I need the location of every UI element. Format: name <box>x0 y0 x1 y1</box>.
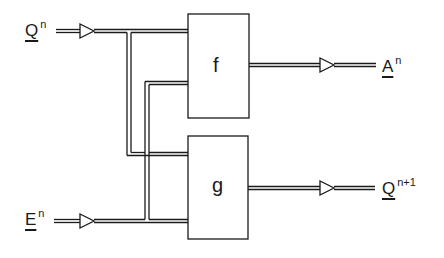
buffer-qn1-icon <box>320 181 334 195</box>
buffer-en-icon <box>80 214 94 228</box>
buffer-qn-icon <box>80 24 94 38</box>
bus-qn1-output <box>248 187 375 190</box>
bus-qn-input <box>56 30 188 156</box>
input-label-qn: Qn <box>25 18 46 41</box>
output-label-an: An <box>382 54 401 77</box>
block-f-label: f <box>213 54 219 77</box>
input-label-en: En <box>25 207 44 230</box>
buffer-an-icon <box>320 58 334 72</box>
output-label-qn1: Qn+1 <box>382 176 416 199</box>
bus-an-output <box>249 64 376 67</box>
block-diagram <box>0 0 444 258</box>
block-g-label: g <box>212 174 223 197</box>
